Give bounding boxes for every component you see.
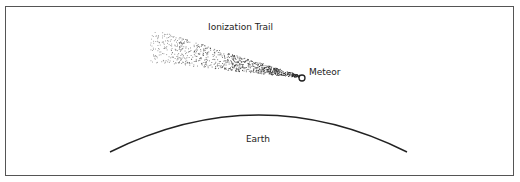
meteor-label: Meteor	[309, 67, 341, 77]
meteor-icon	[299, 75, 305, 81]
ionization-trail	[150, 32, 300, 78]
meteor-diagram: Ionization Trail Meteor Earth	[0, 0, 520, 182]
earth-label: Earth	[246, 134, 270, 144]
ionization-trail-label: Ionization Trail	[208, 22, 273, 32]
